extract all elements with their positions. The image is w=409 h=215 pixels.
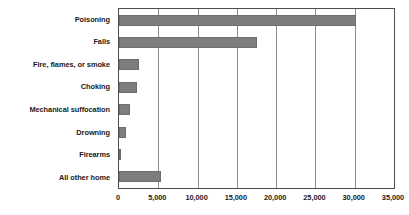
bar-row <box>119 9 394 31</box>
y-axis-tick-mechanical-suffocation: Mechanical suffocation <box>0 99 114 122</box>
bar-row <box>119 54 394 76</box>
bar-row <box>119 166 394 188</box>
x-axis-tick-label: 10,000 <box>185 194 207 201</box>
y-axis-tick-fire-flames-or-smoke: Fire, flames, or smoke <box>0 53 114 76</box>
y-axis-tick-poisoning: Poisoning <box>0 8 114 31</box>
y-axis-tick-drowning: Drowning <box>0 121 114 144</box>
y-axis-tick-all-other-home: All other home <box>0 166 114 189</box>
bar-row <box>119 31 394 53</box>
y-axis-category-labels: Poisoning Falls Fire, flames, or smoke C… <box>0 8 114 189</box>
y-axis-tick-label: Choking <box>81 83 110 90</box>
bar-row <box>119 99 394 121</box>
bar-row <box>119 121 394 143</box>
plot-area <box>118 8 395 189</box>
bar-chart: Poisoning Falls Fire, flames, or smoke C… <box>0 0 409 215</box>
y-axis-tick-firearms: Firearms <box>0 144 114 167</box>
y-axis-tick-label: Drowning <box>76 129 110 136</box>
x-axis-tick-label: 5,000 <box>148 194 166 201</box>
bar-poisoning <box>119 15 356 26</box>
bar-firearms <box>119 149 121 160</box>
y-axis-tick-label: All other home <box>59 174 110 181</box>
bar-falls <box>119 37 257 48</box>
bars-layer <box>119 9 394 188</box>
bar-row <box>119 76 394 98</box>
y-axis-tick-label: Firearms <box>79 151 110 158</box>
bar-mechanical-suffocation <box>119 104 130 115</box>
y-axis-tick-label: Mechanical suffocation <box>29 106 110 113</box>
bar-drowning <box>119 127 126 138</box>
bar-fire-flames-or-smoke <box>119 59 139 70</box>
x-axis-tick-label: 15,000 <box>225 194 247 201</box>
x-axis-tick-label: 35,000 <box>382 194 404 201</box>
bar-row <box>119 143 394 165</box>
bar-all-other-home <box>119 171 161 182</box>
x-axis-tick-label: 20,000 <box>264 194 286 201</box>
bar-choking <box>119 82 137 93</box>
y-axis-tick-choking: Choking <box>0 76 114 99</box>
x-axis-tick-label: 25,000 <box>303 194 325 201</box>
y-axis-tick-label: Poisoning <box>75 16 110 23</box>
y-axis-tick-label: Fire, flames, or smoke <box>33 61 110 68</box>
y-axis-tick-label: Falls <box>93 38 110 45</box>
x-axis-tick-label: 30,000 <box>343 194 365 201</box>
x-axis-tick-labels: 05,00010,00015,00020,00025,00030,00035,0… <box>118 194 395 208</box>
x-axis-tick-label: 0 <box>116 194 120 201</box>
y-axis-tick-falls: Falls <box>0 31 114 54</box>
